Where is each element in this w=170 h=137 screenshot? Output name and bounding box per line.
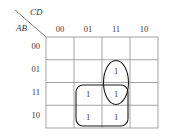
cd-axis-label: CD	[30, 7, 43, 17]
row-header-00: 00	[32, 41, 41, 51]
karnaugh-map: CD AB 00 01 11 10 00 01 11 10 1 1 1 1 1	[0, 0, 170, 137]
cell-r2-c1: 1	[86, 89, 90, 99]
cell-r3-c1: 1	[86, 112, 90, 122]
col-header-10: 10	[140, 24, 149, 34]
cell-r1-c2: 1	[114, 66, 118, 76]
col-header-01: 01	[84, 24, 93, 34]
col-header-00: 00	[56, 24, 65, 34]
row-header-11: 11	[32, 87, 40, 97]
row-header-10: 10	[32, 110, 41, 120]
row-header-01: 01	[32, 64, 41, 74]
col-header-11: 11	[112, 24, 120, 34]
cell-r2-c2: 1	[114, 89, 118, 99]
cell-r3-c2: 1	[114, 112, 118, 122]
ab-axis-label: AB	[15, 23, 27, 33]
